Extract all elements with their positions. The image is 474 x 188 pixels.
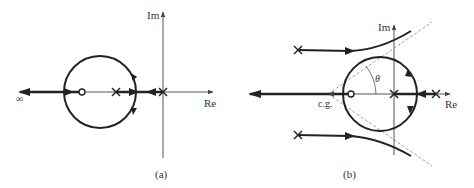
arrow-upper-branch-icon xyxy=(345,47,355,55)
panel-caption: (b) xyxy=(343,168,356,181)
angle-label: θ xyxy=(375,73,380,84)
root-locus-figure: Im Re ∞ (a) xyxy=(0,0,474,188)
zero-marker-icon xyxy=(348,91,354,97)
arrow-circle-lower-icon xyxy=(131,108,137,115)
imag-axis-label: Im xyxy=(147,9,160,21)
centroid-marker-icon xyxy=(328,91,334,97)
infinity-label: ∞ xyxy=(16,93,23,104)
arrow-segment-right-icon xyxy=(129,88,139,96)
panel-a: Im Re ∞ (a) xyxy=(16,9,216,181)
arrow-into-zero-icon xyxy=(64,88,74,96)
panel-b: Im Re c.g. θ (b) xyxy=(248,21,457,181)
real-axis-label: Re xyxy=(445,98,457,110)
arrow-lower-branch-icon xyxy=(345,132,355,140)
arrow-segment-left-icon xyxy=(146,88,156,96)
real-axis-label: Re xyxy=(204,97,216,109)
panel-caption: (a) xyxy=(155,168,168,181)
arrow-left-infinity-icon xyxy=(248,90,261,98)
centroid-label: c.g. xyxy=(318,98,332,109)
imag-axis-label: Im xyxy=(378,21,391,33)
zero-marker-icon xyxy=(79,89,85,95)
